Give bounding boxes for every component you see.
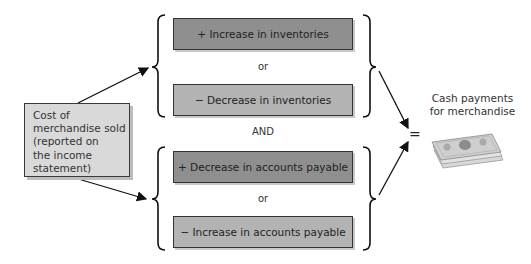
- source-line: (reported on: [33, 135, 129, 148]
- decrease-payable-box: + Decrease in accounts payable: [173, 151, 353, 183]
- source-line: statement): [33, 162, 129, 175]
- decrease-inventories-box: − Decrease in inventories: [173, 84, 353, 116]
- source-line: merchandise sold: [33, 122, 129, 135]
- money-stack-icon: [432, 134, 503, 168]
- increase-payable-box: − Increase in accounts payable: [173, 216, 353, 248]
- right-brace-bottom: [363, 147, 376, 250]
- or-label-payable: or: [173, 193, 353, 204]
- left-brace-top: [152, 15, 165, 117]
- arrow-from-inventories: [379, 71, 408, 128]
- left-brace-bottom: [152, 147, 165, 250]
- cost-of-merchandise-sold-box: Cost of merchandise sold (reported on th…: [24, 103, 130, 177]
- right-brace-top: [363, 15, 376, 117]
- arrow-from-payables: [379, 142, 408, 195]
- equals-sign: =: [409, 126, 421, 142]
- arrow-to-inventories: [78, 68, 148, 103]
- source-line: Cost of: [33, 109, 129, 122]
- arrow-to-payables: [75, 178, 146, 199]
- cash-payments-label: Cash payments for merchandise: [420, 92, 525, 118]
- result-line: for merchandise: [420, 105, 525, 118]
- and-label: AND: [173, 126, 353, 137]
- source-line: the income: [33, 149, 129, 162]
- increase-inventories-box: + Increase in inventories: [173, 18, 353, 50]
- or-label-inventories: or: [173, 61, 353, 72]
- result-line: Cash payments: [420, 92, 525, 105]
